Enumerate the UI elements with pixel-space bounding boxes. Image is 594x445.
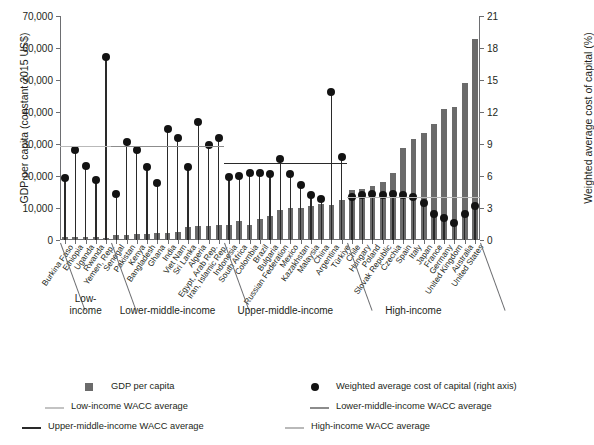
stem-wacc	[382, 195, 383, 240]
dot-wacc	[286, 170, 294, 178]
dot-wacc	[235, 172, 243, 180]
stem-wacc	[413, 197, 414, 240]
y-tick-label-left: 50,000	[22, 75, 53, 86]
stem-wacc	[433, 214, 434, 240]
dot-wacc	[215, 134, 223, 142]
stem-wacc	[239, 176, 240, 240]
legend-line-icon	[310, 407, 329, 409]
dot-wacc	[317, 195, 325, 203]
income-group-separator	[224, 243, 250, 311]
stem-wacc	[177, 138, 178, 240]
dot-wacc	[133, 146, 141, 154]
income-group-annotations: Low-incomeLower-middle-incomeUpper-middl…	[0, 243, 587, 338]
stem-wacc	[290, 174, 291, 240]
dot-wacc	[143, 163, 151, 171]
legend-dot-icon	[311, 383, 319, 391]
y-tick-label-left: 70,000	[22, 11, 53, 22]
dot-wacc	[225, 173, 233, 181]
dot-wacc	[297, 181, 305, 189]
income-group-label: High-income	[343, 305, 483, 317]
dot-wacc	[420, 199, 428, 207]
dot-wacc	[246, 169, 254, 177]
income-group-label: Upper-middle-income	[215, 305, 355, 317]
stem-wacc	[269, 174, 270, 240]
stem-wacc	[136, 150, 137, 240]
dot-wacc	[471, 202, 479, 210]
stem-wacc	[218, 138, 219, 240]
legend-line-icon	[22, 427, 41, 429]
dot-wacc	[61, 174, 69, 182]
y-tick-label-left: 10,000	[22, 203, 53, 214]
dot-wacc	[92, 176, 100, 184]
dot-wacc	[184, 163, 192, 171]
stem-wacc	[75, 150, 76, 240]
stem-wacc	[85, 166, 86, 240]
stem-wacc	[64, 178, 65, 240]
y-tick-mark-left	[56, 80, 60, 81]
legend-label: Lower-middle-income WACC average	[336, 401, 492, 411]
y-tick-mark-right	[480, 16, 484, 17]
stem-wacc	[146, 167, 147, 240]
y-tick-label-left: 30,000	[22, 139, 53, 150]
dot-wacc	[82, 162, 90, 170]
legend-label: Upper-middle-income WACC average	[48, 421, 204, 431]
y-tick-mark-right	[480, 176, 484, 177]
y-tick-mark-right	[480, 112, 484, 113]
wacc-average-line	[224, 163, 347, 165]
legend-square-icon	[85, 383, 93, 391]
stem-wacc	[280, 159, 281, 240]
dot-wacc	[307, 191, 315, 199]
y-tick-label-left: 40,000	[22, 107, 53, 118]
y-tick-mark-left	[56, 16, 60, 17]
y-tick-mark-left	[56, 208, 60, 209]
dot-wacc	[327, 88, 335, 96]
dot-wacc	[174, 134, 182, 142]
stem-wacc	[187, 167, 188, 240]
dot-wacc	[256, 169, 264, 177]
dot-wacc	[164, 125, 172, 133]
stem-wacc	[249, 173, 250, 240]
stem-wacc	[198, 122, 199, 240]
y-tick-label-right: 12	[487, 107, 498, 118]
y-tick-label-left: 60,000	[22, 43, 53, 54]
stem-wacc	[474, 206, 475, 240]
stem-wacc	[310, 195, 311, 240]
legend-label: Weighted average cost of capital (right …	[336, 381, 517, 391]
stem-wacc	[105, 57, 106, 240]
dot-wacc	[194, 118, 202, 126]
y-tick-mark-right	[480, 208, 484, 209]
y-tick-label-right: 21	[487, 11, 498, 22]
dot-wacc	[338, 153, 346, 161]
chart-legend: GDP per capitaWeighted average cost of c…	[0, 382, 587, 442]
stem-wacc	[362, 195, 363, 240]
y-tick-label-right: 18	[487, 43, 498, 54]
income-group-separator	[347, 243, 373, 311]
dot-wacc	[153, 179, 161, 187]
stem-wacc	[392, 194, 393, 240]
stem-wacc	[116, 194, 117, 240]
y-tick-mark-right	[480, 80, 484, 81]
y-tick-label-right: 6	[487, 171, 493, 182]
y-tick-label-right: 3	[487, 203, 493, 214]
wacc-average-line	[111, 146, 224, 148]
legend-line-icon	[45, 407, 64, 409]
y-tick-mark-left	[56, 240, 60, 241]
stem-wacc	[351, 197, 352, 240]
y-tick-mark-right	[480, 240, 484, 241]
legend-label: High-income WACC average	[311, 421, 430, 431]
stem-wacc	[372, 194, 373, 240]
dot-wacc	[102, 53, 110, 61]
y-tick-label-right: 9	[487, 139, 493, 150]
stem-wacc	[341, 157, 342, 240]
y-tick-mark-left	[56, 112, 60, 113]
income-group-separator	[480, 243, 506, 311]
axis-right-spine	[479, 16, 480, 240]
legend-label: GDP per capita	[111, 381, 174, 391]
wacc-average-line	[60, 146, 111, 148]
legend-label: Low-income WACC average	[71, 401, 188, 411]
stem-wacc	[321, 199, 322, 240]
y-tick-mark-left	[56, 176, 60, 177]
dot-wacc	[112, 190, 120, 198]
stem-wacc	[95, 180, 96, 240]
y-tick-mark-right	[480, 144, 484, 145]
